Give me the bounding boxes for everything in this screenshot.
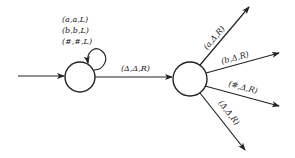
turing-machine-diagram: (a,a,L) (b,b,L) (#,#,L) (Δ,Δ,R) (a,Δ,R) … [0, 0, 295, 158]
self-loop-label-2: (b,b,L) [62, 26, 89, 35]
state-q1 [65, 62, 95, 92]
transition-b-label: (b,Δ,R) [220, 50, 250, 66]
state-q2 [173, 62, 207, 96]
self-loop-label-3: (#,#,L) [62, 37, 92, 46]
self-loop-label-1: (a,a,L) [62, 15, 88, 24]
transition-q1-q2-label: (Δ,Δ,R) [121, 64, 150, 73]
transition-delta-label: (Δ,Δ,R) [216, 99, 241, 127]
